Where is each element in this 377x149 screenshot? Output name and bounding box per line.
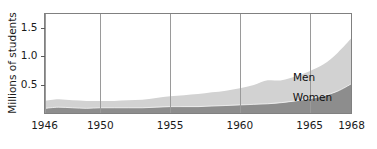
series-label-men: Men [293,71,315,83]
x-tick-label: 1965 [296,119,323,131]
chart-figure: 0.51.01.5 194619501955196019651968 Milli… [0,0,377,149]
x-tick-label: 1955 [157,119,184,131]
y-tick-label: 1.5 [21,21,38,33]
x-tick-label: 1950 [87,119,114,131]
area-chart: 0.51.01.5 194619501955196019651968 Milli… [0,0,377,149]
y-tick-label: 1.0 [21,49,38,61]
x-tick-label: 1960 [226,119,253,131]
y-axis-title: Millions of students [6,12,18,114]
series-label-women: Women [293,91,333,103]
x-tick-label: 1968 [338,119,365,131]
x-tick-label: 1946 [31,119,58,131]
y-tick-label: 0.5 [21,78,38,90]
y-axis-tick-labels: 0.51.01.5 [21,21,38,90]
